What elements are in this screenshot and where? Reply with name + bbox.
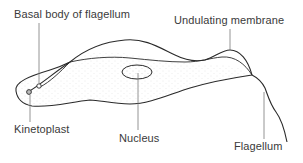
trypanosome-diagram: Basal body of flagellum Undulating membr… bbox=[0, 0, 303, 163]
nucleus bbox=[122, 65, 152, 79]
label-undulating-membrane: Undulating membrane bbox=[174, 14, 284, 27]
label-basal-body: Basal body of flagellum bbox=[14, 8, 130, 21]
label-flagellum: Flagellum bbox=[234, 140, 283, 153]
basal-body bbox=[37, 84, 41, 88]
label-nucleus: Nucleus bbox=[119, 132, 159, 145]
flagellum-free-end bbox=[252, 75, 287, 142]
label-kinetoplast: Kinetoplast bbox=[14, 123, 70, 136]
kinetoplast bbox=[27, 90, 32, 95]
